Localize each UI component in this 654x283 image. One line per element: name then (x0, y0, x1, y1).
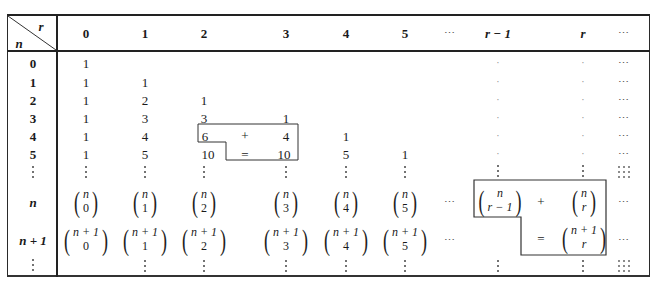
cell-4-r: · (581, 131, 584, 141)
vdots-bottom-col-r (582, 260, 584, 272)
cell-0-r: · (581, 58, 584, 68)
cell-5-4: 5 (343, 148, 350, 161)
cell-2-r: · (581, 95, 584, 105)
binom-n1-5: (n + 15) (381, 225, 429, 255)
cell-4-0: 1 (83, 130, 90, 143)
cell-5-r: · (581, 149, 584, 159)
binom-n-2: (n2) (190, 187, 218, 217)
col-header-2: 2 (201, 27, 208, 40)
ddots-bottom-trailing (618, 260, 630, 272)
cell-5-0: 1 (83, 148, 90, 161)
ddots-trailing (618, 166, 630, 178)
row-n-trailing-ellipsis: ⋯ (618, 197, 631, 208)
cell-2-ellipsis: ⋯ (618, 95, 631, 106)
vdots-col-r (582, 165, 584, 177)
column-header-divider (7, 50, 650, 52)
cell-1-0: 1 (83, 76, 90, 89)
vdots-col-1 (144, 166, 146, 178)
pascal-rule-box-small (196, 122, 302, 164)
col-header-0: 0 (83, 27, 90, 40)
cell-4-r-minus-1: · (496, 131, 499, 141)
row-label-vdots-bottom (32, 259, 34, 271)
row-label-4: 4 (30, 130, 37, 143)
row-label-n: n (29, 196, 36, 209)
vdots-col-0 (85, 166, 87, 178)
cell-0-ellipsis: ⋯ (618, 58, 631, 69)
cell-3-r-minus-1: · (496, 113, 499, 123)
row-label-2: 2 (30, 94, 37, 107)
binom-n-4: (n4) (332, 187, 360, 217)
col-header-r: r (580, 27, 585, 40)
cell-3-r: · (581, 113, 584, 123)
cell-2-r-minus-1: · (496, 95, 499, 105)
col-header-r-minus-1: r − 1 (485, 27, 511, 40)
row-label-0: 0 (30, 57, 37, 70)
vdots-col-4 (345, 166, 347, 178)
binom-n-0: (n0) (72, 187, 100, 217)
col-header-trailing-ellipsis: ⋯ (618, 28, 631, 39)
binom-n1-1: (n + 11) (121, 225, 169, 255)
binom-n-3: (n3) (272, 187, 300, 217)
cell-1-1: 1 (142, 76, 149, 89)
cell-3-0: 1 (83, 112, 90, 125)
binom-n-5: (n5) (391, 187, 419, 217)
vdots-bottom-col-4 (345, 260, 347, 272)
row-label-1: 1 (30, 76, 37, 89)
vdots-col-5 (404, 166, 406, 178)
col-header-3: 3 (283, 27, 290, 40)
row-label-vdots (32, 166, 34, 178)
row-label-n-plus-1: n + 1 (19, 234, 47, 247)
binom-n1-2: (n + 12) (180, 225, 228, 255)
col-header-1: 1 (142, 27, 149, 40)
row-n-ellipsis: ⋯ (444, 197, 457, 208)
binom-n1-4: (n + 14) (322, 225, 370, 255)
vdots-bottom-col-5 (404, 260, 406, 272)
binom-n1-0: (n + 10) (62, 225, 110, 255)
binom-n1-3: (n + 13) (262, 225, 310, 255)
row-label-3: 3 (30, 112, 37, 125)
pascal-rule-box-large (472, 178, 610, 258)
cell-1-r: · (581, 77, 584, 87)
cell-5-ellipsis: ⋯ (618, 149, 631, 160)
cell-0-0: 1 (83, 57, 90, 70)
corner-row-var: n (15, 37, 22, 50)
binom-n-1: (n1) (131, 187, 159, 217)
cell-1-r-minus-1: · (496, 77, 499, 87)
row-n1-trailing-ellipsis: ⋯ (618, 235, 631, 246)
cell-0-r-minus-1: · (496, 58, 499, 68)
cell-4-1: 4 (142, 130, 149, 143)
cell-5-r-minus-1: · (496, 149, 499, 159)
vdots-col-2 (203, 166, 205, 178)
col-header-ellipsis: ⋯ (444, 28, 457, 39)
cell-2-1: 2 (142, 94, 149, 107)
row-header-divider (56, 14, 58, 277)
vdots-bottom-col-1 (144, 260, 146, 272)
row-label-5: 5 (30, 148, 37, 161)
cell-4-ellipsis: ⋯ (618, 131, 631, 142)
vdots-bottom-col-2 (203, 260, 205, 272)
vdots-col-r-minus-1 (497, 165, 499, 177)
cell-4-4: 1 (343, 130, 350, 143)
cell-5-1: 5 (142, 148, 149, 161)
cell-1-ellipsis: ⋯ (618, 77, 631, 88)
col-header-4: 4 (343, 27, 350, 40)
corner-col-var: r (38, 20, 43, 33)
vdots-col-3 (285, 166, 287, 178)
cell-2-0: 1 (83, 94, 90, 107)
cell-3-1: 3 (142, 112, 149, 125)
col-header-5: 5 (402, 27, 409, 40)
vdots-bottom-col-r-minus-1 (497, 260, 499, 272)
cell-2-2: 1 (201, 94, 208, 107)
cell-5-5: 1 (402, 148, 409, 161)
cell-3-ellipsis: ⋯ (618, 113, 631, 124)
row-n1-ellipsis: ⋯ (444, 235, 457, 246)
vdots-bottom-col-3 (285, 260, 287, 272)
